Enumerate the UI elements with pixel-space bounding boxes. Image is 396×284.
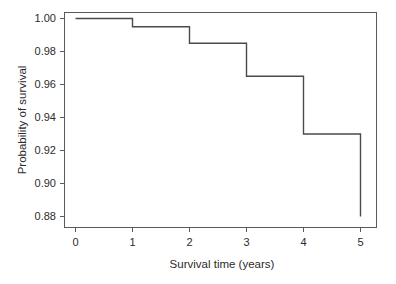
y-tick-label-0.96: 0.96 — [35, 78, 56, 90]
y-tick-label-1.00: 1.00 — [35, 12, 56, 24]
y-tick-label-0.88: 0.88 — [35, 210, 56, 222]
plot-frame — [65, 13, 377, 228]
x-tick-label-1: 1 — [129, 236, 135, 248]
y-tick-label-0.92: 0.92 — [35, 144, 56, 156]
x-tick-label-2: 2 — [186, 236, 192, 248]
y-tick-label-0.90: 0.90 — [35, 177, 56, 189]
x-tick-label-3: 3 — [243, 236, 249, 248]
survival-curve-figure: 1.00 0.98 0.96 0.94 0.92 0.90 0.88 0 1 2… — [0, 0, 396, 284]
y-axis-title: Probability of survival — [16, 66, 28, 175]
y-axis-ticks — [60, 19, 65, 217]
x-axis-tick-labels: 0 1 2 3 4 5 — [72, 236, 363, 248]
survival-step-curve — [76, 19, 361, 217]
x-axis-title: Survival time (years) — [170, 258, 275, 270]
x-tick-label-4: 4 — [300, 236, 306, 248]
x-axis-ticks — [76, 228, 361, 233]
x-tick-label-0: 0 — [72, 236, 78, 248]
x-tick-label-5: 5 — [357, 236, 363, 248]
y-axis-tick-labels: 1.00 0.98 0.96 0.94 0.92 0.90 0.88 — [35, 12, 56, 222]
y-tick-label-0.98: 0.98 — [35, 45, 56, 57]
y-tick-label-0.94: 0.94 — [35, 111, 56, 123]
chart-canvas: 1.00 0.98 0.96 0.94 0.92 0.90 0.88 0 1 2… — [0, 0, 396, 284]
